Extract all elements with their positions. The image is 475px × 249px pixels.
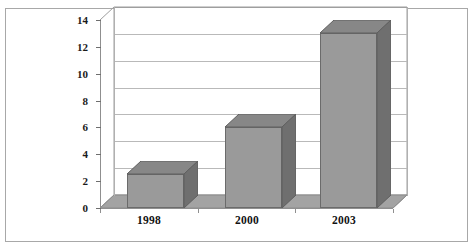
y-tick-12 bbox=[96, 47, 101, 48]
y-tick-10 bbox=[96, 74, 101, 75]
plot-right-edge bbox=[407, 7, 408, 196]
x-axis-line bbox=[100, 208, 393, 209]
x-tick-0 bbox=[100, 209, 101, 213]
y-tick-4 bbox=[96, 154, 101, 155]
chart-screenshot: 14 12 10 8 6 4 2 0 bbox=[0, 0, 475, 249]
y-tick-6 bbox=[96, 127, 101, 128]
axis-depth-edge-top bbox=[100, 7, 114, 20]
y-axis-label-2: 2 bbox=[62, 176, 88, 187]
y-axis-label-14: 14 bbox=[62, 15, 88, 26]
x-axis-label-2000: 2000 bbox=[212, 214, 282, 226]
y-axis-label-6: 6 bbox=[62, 122, 88, 133]
gridline-14 bbox=[114, 7, 407, 8]
bar-1998-3d bbox=[127, 161, 198, 208]
bar-2000-3d bbox=[225, 114, 296, 208]
x-tick-3 bbox=[393, 209, 394, 213]
x-tick-2 bbox=[295, 209, 296, 213]
x-tick-1 bbox=[198, 209, 199, 213]
y-axis-label-0: 0 bbox=[62, 203, 88, 214]
bar-2003[interactable] bbox=[320, 20, 377, 208]
x-axis-label-1998: 1998 bbox=[114, 214, 184, 226]
y-axis-label-4: 4 bbox=[62, 149, 88, 160]
y-tick-8 bbox=[96, 101, 101, 102]
bar-1998[interactable] bbox=[127, 161, 184, 208]
y-axis-label-8: 8 bbox=[62, 96, 88, 107]
plot-area: 14 12 10 8 6 4 2 0 bbox=[0, 0, 475, 249]
y-axis-line-back bbox=[114, 7, 115, 196]
y-axis-label-12: 12 bbox=[62, 42, 88, 53]
y-axis-label-10: 10 bbox=[62, 69, 88, 80]
bar-2003-3d bbox=[320, 20, 391, 208]
y-tick-2 bbox=[96, 181, 101, 182]
y-tick-14 bbox=[96, 20, 101, 21]
bar-2000[interactable] bbox=[225, 114, 282, 208]
x-axis-label-2003: 2003 bbox=[309, 214, 379, 226]
